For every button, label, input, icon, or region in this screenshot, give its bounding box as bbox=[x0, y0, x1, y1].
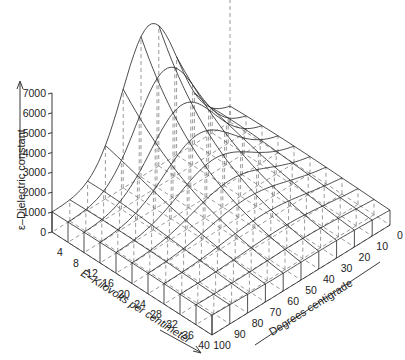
t-tick-label: 100 bbox=[213, 339, 231, 351]
t-tick-label: 70 bbox=[270, 306, 282, 318]
surface-line-const-t bbox=[194, 93, 354, 231]
z-tick-label: 6000 bbox=[23, 107, 47, 119]
t-tick-label: 20 bbox=[359, 251, 371, 263]
z-tick bbox=[48, 113, 52, 114]
e-tick-label: 8 bbox=[73, 257, 79, 269]
surface-line-const-e bbox=[132, 157, 310, 263]
z-tick bbox=[48, 212, 52, 213]
t-tick-label: 30 bbox=[341, 262, 353, 274]
t-tick-label: 40 bbox=[323, 273, 335, 285]
z-tick bbox=[48, 133, 52, 134]
surface-chart: 0100020003000400050006000700048121620242… bbox=[0, 0, 405, 360]
base-edge bbox=[52, 232, 212, 335]
surface-line-const-t bbox=[177, 57, 337, 241]
t-tick-label: 90 bbox=[234, 328, 246, 340]
z-tick bbox=[48, 93, 52, 94]
t-tick-label: 10 bbox=[376, 240, 388, 252]
z-axis-title: ε–Dielectric constant bbox=[15, 129, 27, 230]
e-axis-title: E–Kilovolts per centimeter bbox=[79, 267, 194, 346]
e-tick-label: 40 bbox=[198, 339, 210, 351]
e-tick-label: 4 bbox=[57, 246, 63, 258]
t-tick-label: 50 bbox=[305, 284, 317, 296]
z-tick bbox=[48, 153, 52, 154]
z-tick bbox=[48, 192, 52, 193]
z-tick bbox=[48, 172, 52, 173]
t-tick-label: 80 bbox=[252, 317, 264, 329]
z-tick-label: 7000 bbox=[23, 87, 47, 99]
z-tick-label: 0 bbox=[40, 226, 46, 238]
axes: 0100020003000400050006000700048121620242… bbox=[17, 81, 403, 353]
z-tick bbox=[48, 232, 52, 233]
t-tick-label: 0 bbox=[397, 229, 403, 241]
t-tick-label: 60 bbox=[287, 295, 299, 307]
